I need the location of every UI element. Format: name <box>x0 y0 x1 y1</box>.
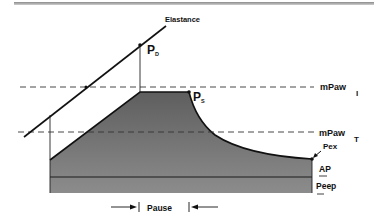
elastance-label: Elastance <box>165 15 200 24</box>
peep-label: Peep <box>316 181 336 191</box>
elastance-intersect-point <box>85 86 88 89</box>
mpaw-t-subscript: T <box>354 135 359 144</box>
airway-pressure-diagram: Elastance P D P S mPaw I mPaw T Pex AP P… <box>0 0 374 223</box>
pex-label: Pex <box>323 142 338 151</box>
pd-label: P <box>147 43 155 57</box>
mpaw-i-label: mPaw <box>320 82 347 92</box>
pressure-waveform-area <box>50 92 312 193</box>
ps-subscript: S <box>201 98 205 104</box>
pd-subscript: D <box>155 51 159 57</box>
pause-label: Pause <box>147 203 172 213</box>
mpaw-i-subscript: I <box>356 89 358 98</box>
ap-label: AP <box>319 164 331 174</box>
ps-point <box>187 90 191 94</box>
ps-label: P <box>193 90 201 104</box>
pause-left-arrowhead <box>130 205 137 210</box>
pd-point <box>138 43 142 47</box>
mpaw-t-label: mPaw <box>319 128 346 138</box>
